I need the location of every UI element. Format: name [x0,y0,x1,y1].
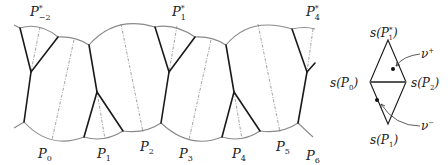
top-arc-p4star [292,28,315,30]
label-p4: P4 [231,146,246,163]
label-nu-plus: ν+ [421,47,434,61]
label-s-p1: s(P1) [370,133,398,149]
edge-vertical-p2 [161,72,169,123]
label-p4-star: P*4 [305,4,320,22]
label-p1: P1 [96,146,111,163]
label-p-2-star: P*−2 [29,4,51,22]
top-arc-big-1 [89,24,155,45]
edge-vertical-p4 [226,45,234,92]
edge-wedge-p4star [292,29,315,72]
edge-vertical-p1 [89,45,97,92]
label-s-p2: s(P2) [411,76,439,92]
label-s-p0: s(P0) [330,76,358,92]
label-p1-star: P*1 [171,4,186,22]
label-p5: P5 [275,139,290,156]
label-p0: P0 [37,146,52,163]
label-nu-minus: ν− [421,119,434,133]
top-stub-left [14,25,20,28]
bottom-stub-left [14,122,24,128]
diamond-labels: s(P*1) s(P0) s(P2) s(P1) ν+ ν− [330,26,439,149]
nu-plus-pointer [396,54,420,66]
top-arc-big-2 [226,25,292,45]
edge-wedge-p1 [84,92,123,137]
bottom-arc-p1 [84,131,123,139]
dashed-p3 [189,40,211,140]
edge-vertical-p5 [298,72,307,123]
bottom-stub-right [298,123,313,137]
nu-minus-point [375,98,379,102]
diagram-canvas: P*−2 P*1 P*4 P0 P1 P2 P3 P4 P5 P6 s(P*1)… [0,0,448,165]
bottom-arc-p3 [161,123,222,141]
label-s-p1-star: s(P*1) [370,26,398,42]
label-p6: P6 [305,148,320,165]
edge-left-vertical [24,72,31,122]
cell-chain [14,24,315,142]
label-p3: P3 [178,146,193,163]
dashed-p2 [121,24,143,132]
edge-wedge-p-2star [20,28,58,72]
dashed-p1star [169,26,177,72]
label-p2: P2 [139,139,154,156]
edge-wedge-p4 [222,92,260,137]
dashed-p5 [258,24,280,132]
nu-plus-point [391,67,395,71]
dashed-p0 [52,40,74,140]
cell-labels: P*−2 P*1 P*4 P0 P1 P2 P3 P4 P5 P6 [29,4,320,165]
